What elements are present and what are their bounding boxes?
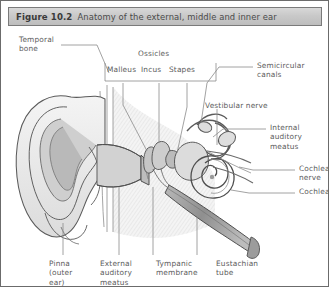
label-temporal-bone: Temporal bone — [19, 35, 54, 54]
label-pinna: Pinna (outer ear) — [49, 259, 72, 287]
ear-anatomy-illustration: Temporal bone Ossicles Malleus Incus Sta… — [1, 27, 329, 287]
pinna-shape — [16, 96, 105, 244]
figure-number: Figure 10.2 — [16, 12, 72, 22]
label-eustachian-tube: Eustachian tube — [216, 259, 258, 278]
label-internal-auditory-meatus: Internal auditory meatus — [270, 123, 302, 151]
label-cochlea-nerve: Cochlea nerve — [299, 164, 329, 183]
label-vestibular-nerve: Vestibular nerve — [205, 101, 268, 110]
figure-page: Figure 10.2 Anatomy of the external, mid… — [0, 0, 329, 287]
figure-caption: Anatomy of the external, middle and inne… — [77, 12, 276, 22]
label-stapes: Stapes — [169, 65, 195, 74]
label-incus: Incus — [141, 65, 161, 74]
label-malleus: Malleus — [107, 65, 136, 74]
label-ossicles: Ossicles — [138, 49, 169, 58]
figure-title-bar: Figure 10.2 Anatomy of the external, mid… — [8, 7, 322, 26]
label-external-auditory-meatus: External auditory meatus — [100, 259, 132, 287]
label-tympanic-membrane: Tympanic membrane — [156, 259, 198, 278]
label-cochlea: Cochlea — [299, 187, 329, 196]
label-semicircular-canals: Semicircular canals — [257, 61, 305, 80]
